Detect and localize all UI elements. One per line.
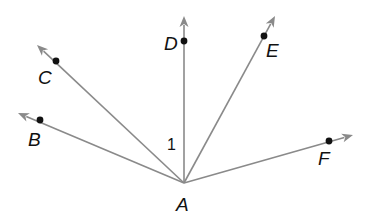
point-label-d: D (164, 33, 178, 54)
point-d (181, 38, 188, 45)
labels-group: BCDEF (28, 33, 331, 169)
point-e (261, 33, 268, 40)
point-c (53, 58, 60, 65)
point-label-b: B (28, 129, 41, 150)
point-b (37, 117, 44, 124)
vertex-label-a: A (175, 194, 189, 215)
point-label-c: C (38, 67, 52, 88)
ray-ac (44, 51, 184, 183)
angle-1-label: 1 (167, 136, 176, 153)
point-f (326, 138, 333, 145)
point-label-e: E (266, 40, 279, 61)
ray-ab (26, 116, 184, 183)
geometry-diagram: BCDEF A 1 (0, 0, 374, 219)
ray-ae (184, 24, 271, 183)
point-label-f: F (318, 148, 331, 169)
